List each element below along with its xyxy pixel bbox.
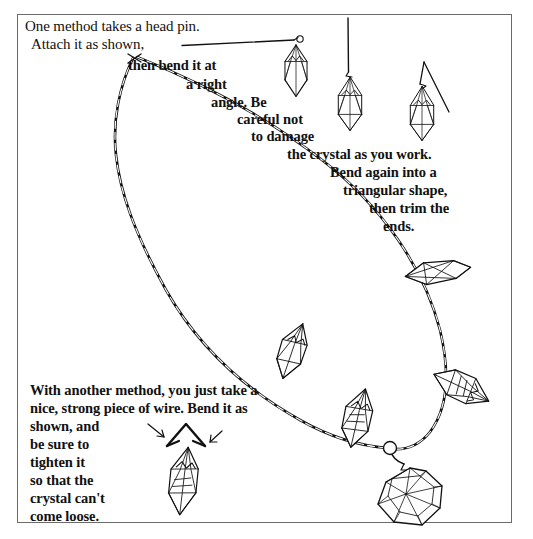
top-line-3: then bend it at — [128, 57, 216, 74]
top-line-8: the crystal as you work. — [287, 146, 432, 163]
top-line-6: careful not — [237, 111, 303, 128]
top-line-4: a right — [186, 76, 227, 93]
top-line-5: angle. Be — [211, 94, 267, 111]
top-line-2: Attach it as shown, — [31, 36, 144, 53]
bottom-line-7: crystal can't — [30, 490, 105, 508]
top-line-7: to damage — [251, 128, 314, 145]
top-line-11: then trim the — [369, 200, 449, 217]
illustration-border — [17, 14, 512, 523]
bottom-line-6: so that the — [30, 472, 93, 490]
bottom-line-2: nice, strong piece of wire. Bend it as — [30, 400, 248, 418]
bottom-line-1: With another method, you just take a — [30, 382, 257, 400]
bottom-line-3: shown, and — [30, 418, 99, 436]
top-line-10: triangular shape, — [343, 182, 447, 199]
bottom-line-4: be sure to — [30, 436, 89, 454]
bottom-line-8: come loose. — [30, 508, 99, 526]
top-line-1: One method takes a head pin. — [25, 18, 200, 35]
illustration-page: One method takes a head pin. Attach it a… — [0, 0, 533, 539]
top-line-12: ends. — [383, 218, 414, 235]
top-line-9: Bend again into a — [330, 164, 437, 181]
bottom-line-5: tighten it — [30, 454, 85, 472]
